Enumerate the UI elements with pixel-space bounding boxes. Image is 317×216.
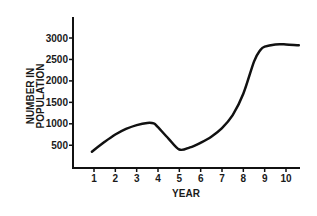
x-tick-label: 3 [134,173,140,184]
x-tick-label: 9 [262,173,268,184]
y-tick-label: 2000 [46,75,69,86]
x-tick-label: 2 [113,173,119,184]
y-tick-label: 1500 [46,97,69,108]
x-tick-label: 6 [198,173,204,184]
y-tick-label: 500 [51,140,68,151]
x-tick-label: 10 [280,173,292,184]
x-tick-label: 1 [91,173,97,184]
y-axis-title: NUMBER IN POPULATION [25,64,46,129]
x-tick-label: 4 [155,173,161,184]
population-line [92,44,299,151]
x-tick-label: 8 [241,173,247,184]
x-tick-label: 5 [177,173,183,184]
y-tick-label: 1000 [46,118,69,129]
x-tick-label: 7 [219,173,225,184]
svg-text:POPULATION: POPULATION [35,64,46,129]
y-tick-label: 2500 [46,54,69,65]
x-axis-title: YEAR [172,188,201,199]
y-axis: 50010001500200025003000 [46,17,73,168]
y-tick-label: 3000 [46,33,69,44]
x-axis: 12345678910 [72,168,300,184]
population-chart: 50010001500200025003000 12345678910 YEAR… [0,0,317,216]
